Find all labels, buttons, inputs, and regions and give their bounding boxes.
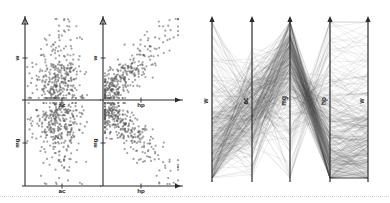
x-axis-arrow-topright — [175, 97, 181, 102]
scatter-xlabel-topright: hp — [137, 101, 145, 108]
scatter-ylabel-bottomright: mg — [91, 138, 98, 148]
scatter-subplot-mg-vs-ac — [26, 102, 88, 185]
parallel-axis-label-1: ac — [242, 97, 249, 105]
parallel-axis-label-0: w — [202, 98, 209, 104]
footer-divider — [0, 196, 390, 197]
scatter-ylabel-bottomleft: mg — [13, 138, 20, 148]
scatter-xlabel-topleft: ac — [59, 101, 66, 108]
parallel-axis-arrow-1 — [249, 16, 254, 22]
parallel-coordinates-panel: wacmghpw — [195, 0, 390, 203]
scatter-subplot-w-vs-ac — [26, 18, 88, 99]
parallel-axis-arrow-3 — [327, 16, 332, 22]
scatter-matrix-svg: ac w hp w ac mg hp mg — [0, 0, 195, 203]
scatter-ylabel-topleft: w — [13, 55, 20, 61]
scatter-subplot-w-vs-hp — [104, 18, 179, 99]
scatter-subplot-mg-vs-hp — [104, 102, 179, 185]
figure-root: ac w hp w ac mg hp mg wacmghpw — [0, 0, 390, 203]
x-axis-arrow-bottomright — [175, 183, 181, 188]
scatter-matrix-panel: ac w hp w ac mg hp mg — [0, 0, 195, 203]
scatter-xlabel-bottomleft: ac — [59, 187, 66, 194]
scatter-xlabel-bottomright: hp — [137, 187, 145, 194]
parallel-axis-label-4: w — [358, 98, 365, 104]
parallel-coordinates-svg: wacmghpw — [195, 0, 390, 203]
parallel-axis-arrow-0 — [209, 16, 214, 22]
parallel-axis-arrow-2 — [287, 16, 292, 22]
scatter-ylabel-topright: w — [91, 55, 98, 61]
parallel-axis-arrow-4 — [365, 16, 370, 22]
parallel-axis-label-2: mg — [280, 96, 288, 106]
parallel-axis-label-3: hp — [320, 97, 328, 105]
